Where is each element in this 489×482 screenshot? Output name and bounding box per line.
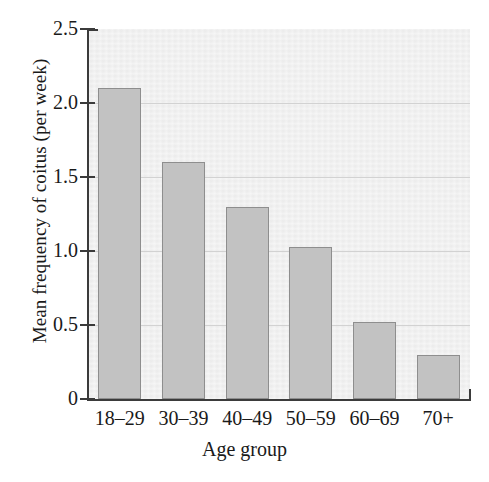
y-axis-tick-label: 1.5	[18, 166, 78, 186]
bar	[98, 88, 141, 399]
plot-texture	[88, 29, 470, 399]
bar-chart: Mean frequency of coitus (per week) 00.5…	[0, 0, 489, 482]
gridline	[88, 325, 470, 326]
bar	[226, 207, 269, 399]
y-axis-tick	[80, 398, 95, 400]
y-axis-tick-label-wrap: 1.0	[10, 240, 78, 260]
x-axis-tick-label: 40–49	[215, 406, 279, 430]
bar	[417, 355, 460, 399]
x-axis-tick-label: 50–59	[279, 406, 343, 430]
y-axis-tick	[80, 102, 95, 104]
gridline	[88, 251, 470, 252]
x-axis-tick-label: 70+	[406, 406, 470, 430]
x-axis-tick-label: 18–29	[88, 406, 152, 430]
y-axis-tick-label: 1.0	[18, 240, 78, 260]
bar	[162, 162, 205, 399]
y-axis-title: Mean frequency of coitus (per week)	[29, 1, 51, 401]
y-axis-tick-label-wrap: 0	[10, 388, 78, 408]
y-axis-tick-label: 0.5	[18, 314, 78, 334]
x-axis-tick-label: 30–39	[152, 406, 216, 430]
y-axis-tick-label: 2.0	[18, 92, 78, 112]
bar	[353, 322, 396, 399]
x-axis-tick-label: 60–69	[343, 406, 407, 430]
y-axis-tick-label-wrap: 2.5	[10, 18, 78, 38]
y-axis-tick-label-wrap: 1.5	[10, 166, 78, 186]
x-axis-right-cap	[469, 389, 471, 401]
x-axis-title: Age group	[0, 438, 489, 461]
gridline	[88, 177, 470, 178]
y-axis-tick-label: 0	[18, 388, 78, 408]
y-axis-tick	[80, 28, 95, 30]
y-axis-tick-label-wrap: 2.0	[10, 92, 78, 112]
y-axis-tick	[80, 250, 95, 252]
x-axis-line	[87, 399, 471, 401]
gridline	[88, 103, 470, 104]
y-axis-line	[87, 29, 89, 400]
plot-area	[88, 29, 470, 399]
y-axis-tick-label-wrap: 0.5	[10, 314, 78, 334]
y-axis-tick	[80, 176, 95, 178]
y-axis-tick	[80, 324, 95, 326]
y-axis-tick-label: 2.5	[18, 18, 78, 38]
bar	[289, 247, 332, 399]
